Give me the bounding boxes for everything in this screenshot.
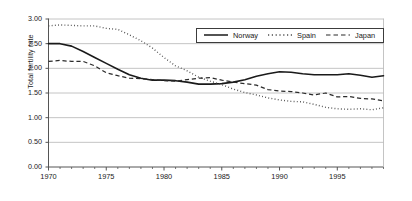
legend-label-norway: Norway [233,31,258,40]
x-tick-label: 1995 [322,173,352,180]
x-tick-label: 1990 [265,173,295,180]
legend-item-japan: Japan [325,31,375,40]
chart-legend: Norway Spain Japan [196,28,384,43]
legend-label-japan: Japan [355,31,375,40]
x-tick-label: 1985 [207,173,237,180]
series-line-japan [49,60,384,100]
x-axis-ticks [49,167,384,171]
legend-line-solid-icon [203,31,229,39]
legend-item-norway: Norway [203,31,258,40]
x-tick-label: 1980 [149,173,179,180]
x-tick-label: 1975 [91,173,121,180]
series-line-norway [49,44,384,84]
legend-line-dotted-icon [267,31,293,39]
legend-item-spain: Spain [267,31,316,40]
legend-label-spain: Spain [297,31,316,40]
x-tick-label: 1970 [34,173,64,180]
legend-line-dashed-icon [325,31,351,39]
fertility-rate-line-chart: Total fertility rate 3.002.502.001.501.0… [0,0,412,201]
